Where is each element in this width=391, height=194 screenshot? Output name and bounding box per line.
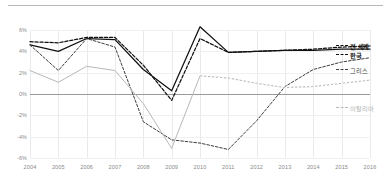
legend-item-label[interactable]: 전 세계 bbox=[350, 42, 369, 51]
legend-swatch-2 bbox=[336, 69, 348, 70]
legend-swatch-0 bbox=[336, 45, 348, 46]
x-axis-tick-label: 2016 bbox=[364, 164, 377, 170]
x-axis-tick-label: 2006 bbox=[80, 164, 93, 170]
x-axis-tick-label: 2004 bbox=[24, 164, 37, 170]
legend-item-label[interactable]: 한국 bbox=[350, 51, 362, 60]
x-axis-tick-label: 2007 bbox=[109, 164, 122, 170]
x-axis-tick-label: 2012 bbox=[250, 164, 263, 170]
series-line-1 bbox=[30, 27, 370, 91]
legend-swatch-1 bbox=[336, 54, 348, 55]
series-line-3 bbox=[30, 66, 370, 148]
x-axis-tick-label: 2008 bbox=[137, 164, 150, 170]
x-axis-tick-labels: 2004200520062007200820092010201120122013… bbox=[30, 164, 370, 176]
x-axis-tick-label: 2014 bbox=[307, 164, 320, 170]
x-axis-tick-label: 2015 bbox=[335, 164, 348, 170]
x-axis-tick-label: 2010 bbox=[194, 164, 207, 170]
legend-swatch-3 bbox=[336, 107, 348, 108]
x-axis-tick-label: 2009 bbox=[165, 164, 178, 170]
x-axis-tick-label: 2013 bbox=[279, 164, 292, 170]
x-axis-tick-label: 2011 bbox=[222, 164, 234, 170]
legend-item-label[interactable]: 그리스 bbox=[350, 66, 368, 75]
x-axis-tick-label: 2005 bbox=[52, 164, 65, 170]
chart-screenshot: 6%4%2%0%-2%-4%-6% 2004200520062007200820… bbox=[0, 0, 391, 194]
series-line-italy-dotted-tail bbox=[200, 76, 370, 88]
series-line-2 bbox=[30, 39, 370, 150]
legend-item-label[interactable]: 이탈리아 bbox=[350, 104, 374, 113]
